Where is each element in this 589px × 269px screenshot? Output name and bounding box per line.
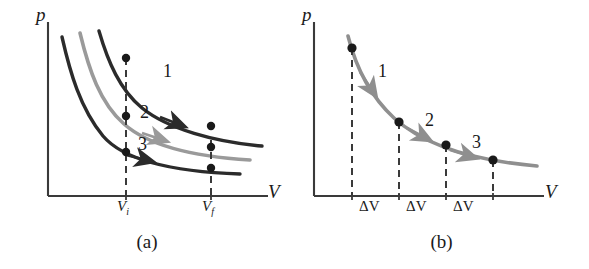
panel-b-step-label-1: 1: [378, 62, 387, 80]
panel-a-curve-label-1: 1: [163, 62, 172, 80]
vf-tick-label: Vf: [202, 199, 214, 217]
point-state-2: [441, 140, 450, 149]
panel-a-plot: [0, 0, 294, 269]
panel-a-caption: (a): [0, 232, 294, 251]
panel-b: p V ΔV ΔV ΔV 1 2 3 (b): [294, 0, 589, 269]
point-state-3: [488, 155, 497, 164]
point-state-1: [394, 117, 403, 126]
figure-container: p V Vi Vf 1 2 3 (a): [0, 0, 589, 269]
point-curve3-vi: [122, 148, 130, 156]
panel-b-step-label-2: 2: [425, 111, 434, 129]
step-1-arrow: [360, 72, 372, 90]
panel-b-caption: (b): [294, 232, 589, 251]
panel-a-p-axis-label: p: [36, 5, 46, 24]
curve-3-path: [62, 37, 240, 174]
panel-b-p-axis-label: p: [302, 5, 312, 24]
curve-1-path: [99, 31, 262, 146]
point-curve3-vf: [207, 164, 215, 172]
delta-v-label-1: ΔV: [359, 199, 379, 214]
panel-b-plot: [294, 0, 589, 269]
panel-a: p V Vi Vf 1 2 3 (a): [0, 0, 294, 269]
panel-b-svg: [294, 0, 589, 269]
point-curve2-vf: [207, 143, 215, 151]
panel-a-axes: [48, 22, 268, 196]
panel-b-step-label-3: 3: [472, 133, 481, 151]
point-curve1-vi: [122, 54, 130, 62]
panel-a-v-axis-label: V: [268, 182, 280, 201]
panel-a-curve-label-2: 2: [140, 103, 149, 121]
panel-a-curve-label-3: 3: [138, 135, 147, 153]
vi-tick-label: Vi: [117, 199, 129, 217]
delta-v-label-2: ΔV: [406, 199, 426, 214]
point-state-0: [347, 43, 356, 52]
panel-a-svg: [0, 0, 294, 269]
point-curve1-vf: [207, 122, 215, 130]
point-curve2-vi: [122, 112, 130, 120]
panel-b-v-axis-label: V: [545, 182, 557, 201]
delta-v-label-3: ΔV: [453, 199, 473, 214]
